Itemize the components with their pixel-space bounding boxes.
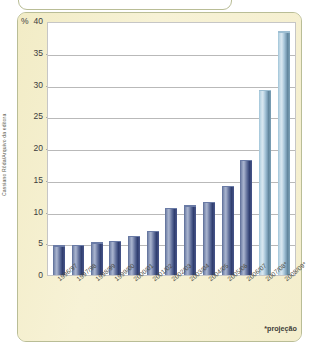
- bar-slot: [237, 23, 256, 275]
- bar-side: [249, 161, 252, 275]
- bar: [259, 91, 271, 275]
- bar-top-cap: [72, 245, 84, 247]
- bar-slot: [50, 23, 69, 275]
- bar-top-cap: [222, 186, 234, 188]
- bar: [278, 32, 290, 275]
- y-axis-tick-label: 25: [17, 111, 43, 121]
- bar-side: [156, 232, 159, 275]
- bar-top-cap: [240, 160, 252, 162]
- bar-top-cap: [259, 90, 271, 92]
- bar-slot: [106, 23, 125, 275]
- bar-top-cap: [147, 231, 159, 233]
- y-axis-tick-label: 0: [17, 270, 43, 280]
- bar-side: [212, 203, 215, 275]
- bar-slot: [162, 23, 181, 275]
- bar-top-cap: [165, 208, 177, 210]
- bar-face: [278, 32, 287, 275]
- plot-area: [47, 22, 296, 276]
- bar-slot: [256, 23, 275, 275]
- bar-side: [287, 32, 290, 275]
- bar-top-cap: [184, 205, 196, 207]
- y-axis-tick-label: 30: [17, 80, 43, 90]
- bar-slot: [87, 23, 106, 275]
- y-axis-tick-label: 40: [17, 16, 43, 26]
- bar-side: [231, 187, 234, 275]
- bar-slot: [218, 23, 237, 275]
- decorative-top-box: [18, 0, 232, 10]
- bar-slot: [125, 23, 144, 275]
- bar: [240, 161, 252, 275]
- bar-slot: [200, 23, 219, 275]
- y-axis-tick-label: 35: [17, 48, 43, 58]
- x-axis-labels: 1996/971997/981998/991999/002000/012001/…: [47, 277, 296, 323]
- bar-top-cap: [91, 242, 103, 244]
- bar-face: [259, 91, 268, 275]
- y-axis-tick-label: 5: [17, 238, 43, 248]
- bar-top-cap: [128, 236, 140, 238]
- bar-top-cap: [278, 31, 290, 33]
- image-credit: Cassiano Rôda/Arquivo da editora: [0, 76, 9, 196]
- y-axis-tick-label: 15: [17, 175, 43, 185]
- bar-slot: [143, 23, 162, 275]
- plot-wrapper: [47, 22, 296, 276]
- bar-slot: [69, 23, 88, 275]
- bar-slot: [274, 23, 293, 275]
- y-axis-ticks: 0510152025303540: [10, 22, 43, 276]
- y-axis-tick-label: 20: [17, 143, 43, 153]
- bar-top-cap: [109, 241, 121, 243]
- bar-top-cap: [203, 202, 215, 204]
- bar-series: [48, 23, 295, 275]
- bar-side: [268, 91, 271, 275]
- y-axis-tick-label: 10: [17, 207, 43, 217]
- bar-side: [193, 206, 196, 275]
- projection-footnote: *projeção: [264, 324, 297, 333]
- bar-face: [53, 246, 62, 275]
- bar-side: [174, 209, 177, 275]
- bar-slot: [181, 23, 200, 275]
- chart-figure: Cassiano Rôda/Arquivo da editora % 05101…: [0, 0, 315, 349]
- bar-face: [240, 161, 249, 275]
- bar-top-cap: [53, 245, 65, 247]
